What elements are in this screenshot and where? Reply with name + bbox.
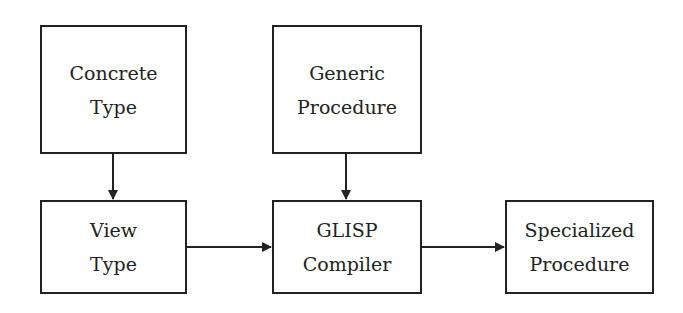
- node-label-line: Procedure: [297, 90, 397, 124]
- node-label-line: Type: [90, 247, 137, 281]
- node-specialized-procedure: Specialized Procedure: [505, 200, 654, 294]
- node-label-line: View: [90, 213, 137, 247]
- node-glisp-compiler: GLISP Compiler: [272, 200, 422, 294]
- node-label-line: Compiler: [303, 247, 392, 281]
- node-label-line: Type: [90, 90, 137, 124]
- node-label-line: Generic: [309, 56, 385, 90]
- node-label-line: Concrete: [69, 56, 157, 90]
- node-label-line: GLISP: [316, 213, 377, 247]
- node-concrete-type: Concrete Type: [40, 25, 187, 154]
- node-label-line: Specialized: [524, 213, 634, 247]
- node-label-line: Procedure: [530, 247, 630, 281]
- node-generic-procedure: Generic Procedure: [272, 25, 422, 154]
- node-view-type: View Type: [40, 200, 187, 294]
